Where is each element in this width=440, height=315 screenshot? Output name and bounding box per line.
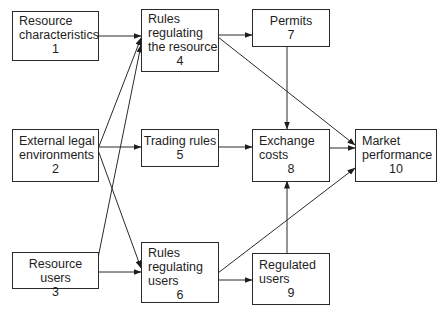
node-label: Resource users: [13, 253, 98, 285]
node-label: Resource characteristics: [13, 12, 98, 42]
node-label: Rules regulating the resource: [142, 10, 218, 54]
node-number: 10: [356, 162, 436, 176]
edge-3-4: [98, 45, 141, 258]
node-label: Exchange costs: [253, 130, 329, 162]
node-exchange-costs: Exchange costs 8: [252, 129, 330, 182]
node-resource-characteristics: Resource characteristics 1: [12, 11, 99, 61]
node-number: 2: [13, 162, 98, 176]
node-label: Market performance: [356, 130, 436, 162]
node-resource-users: Resource users 3: [12, 252, 99, 289]
node-market-performance: Market performance 10: [355, 129, 437, 182]
edge-2-6: [98, 150, 141, 268]
node-label: Rules regulating users: [142, 243, 218, 288]
node-number: 4: [142, 54, 218, 68]
node-rules-regulating-resource: Rules regulating the resource 4: [141, 9, 219, 72]
node-label: Trading rules: [142, 130, 218, 148]
node-number: 6: [142, 288, 218, 302]
node-number: 7: [253, 28, 329, 42]
node-permits: Permits 7: [252, 9, 330, 47]
node-regulated-users: Regulated users 9: [252, 253, 330, 305]
node-external-legal-environments: External legal environments 2: [12, 129, 99, 182]
node-rules-regulating-users: Rules regulating users 6: [141, 242, 219, 303]
node-number: 1: [13, 42, 98, 56]
edge-2-4: [98, 38, 141, 149]
node-label: Permits: [253, 10, 329, 28]
node-trading-rules: Trading rules 5: [141, 129, 219, 167]
node-number: 5: [142, 148, 218, 162]
node-number: 3: [13, 285, 98, 299]
node-number: 8: [253, 162, 329, 176]
node-label: External legal environments: [13, 130, 98, 162]
node-number: 9: [253, 286, 329, 300]
node-label: Regulated users: [253, 254, 329, 286]
